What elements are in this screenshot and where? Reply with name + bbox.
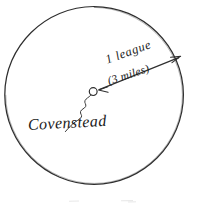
cropped-bottom-marks bbox=[69, 201, 136, 202]
small-open-circle-icon bbox=[89, 88, 97, 96]
diagram-canvas bbox=[0, 0, 197, 203]
covenstead-diagram: 1 league (3 miles) Covenstead bbox=[0, 0, 197, 203]
